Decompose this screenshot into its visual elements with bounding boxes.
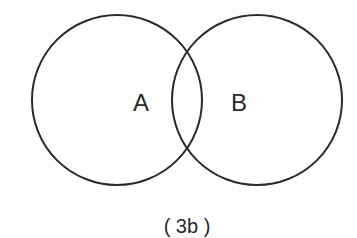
label-a: A [133, 89, 149, 116]
circle-b [172, 15, 342, 185]
label-b: B [231, 89, 247, 116]
venn-diagram: A B ( 3b ) [0, 0, 357, 238]
caption: ( 3b ) [164, 215, 211, 237]
circle-a [32, 15, 202, 185]
